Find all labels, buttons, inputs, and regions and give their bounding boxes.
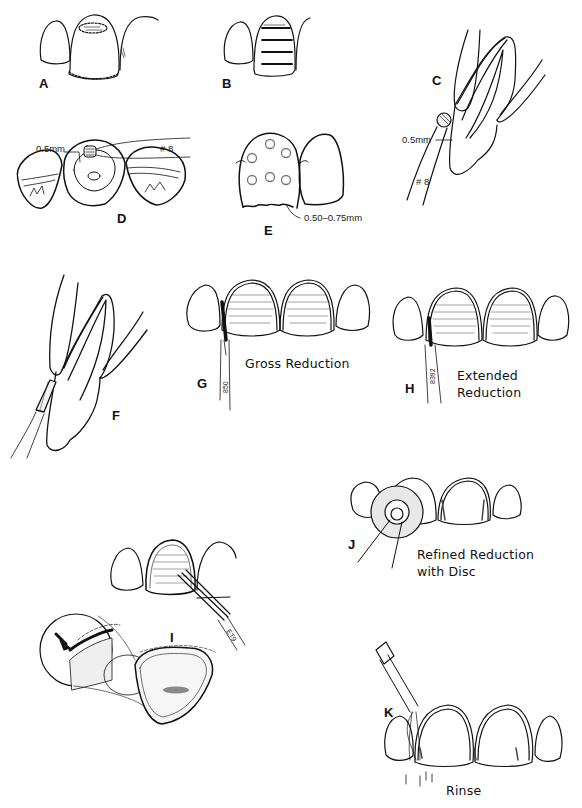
line-art xyxy=(0,0,582,808)
panel-h-label: H xyxy=(405,381,414,396)
panel-d-instrument: # 8 xyxy=(160,143,173,154)
dental-veneer-preparation-figure: A B C 0.5mm # 8 0.5mm # 8 D 0.50–0.75mm … xyxy=(0,0,582,808)
panel-f-label: F xyxy=(112,408,120,423)
panel-k-caption: Rinse xyxy=(446,782,481,799)
panel-j-label: J xyxy=(348,537,355,552)
panel-c-measurement: 0.5mm xyxy=(402,134,431,145)
panel-b-drawing xyxy=(224,16,310,76)
panel-a-label: A xyxy=(39,76,48,91)
panel-d-measurement: 0.5mm xyxy=(36,143,65,154)
panel-k-drawing xyxy=(376,642,562,786)
panel-c-instrument: # 8 xyxy=(416,176,429,187)
panel-g-label: G xyxy=(197,376,207,391)
panel-g-bur-number: 850 xyxy=(222,381,229,393)
panel-b-label: B xyxy=(222,76,231,91)
panel-g-caption: Gross Reduction xyxy=(245,355,350,372)
panel-h-caption: Extended Reduction xyxy=(457,367,582,401)
panel-k-label: K xyxy=(384,705,393,720)
panel-d-label: D xyxy=(117,211,126,226)
panel-c-label: C xyxy=(432,73,441,88)
panel-g-drawing xyxy=(187,280,370,410)
panel-a-drawing xyxy=(40,15,158,79)
panel-e-measurement: 0.50–0.75mm xyxy=(304,212,362,223)
panel-i-label: I xyxy=(170,630,174,645)
panel-h-bur-number: 8392 xyxy=(429,368,436,384)
panel-e-drawing xyxy=(236,133,343,218)
panel-e-label: E xyxy=(264,223,273,238)
panel-i-drawing xyxy=(40,540,245,724)
panel-f-drawing xyxy=(11,275,147,458)
panel-j-caption-line2: with Disc xyxy=(417,563,476,580)
panel-j-caption-line1: Refined Reduction xyxy=(417,546,534,563)
